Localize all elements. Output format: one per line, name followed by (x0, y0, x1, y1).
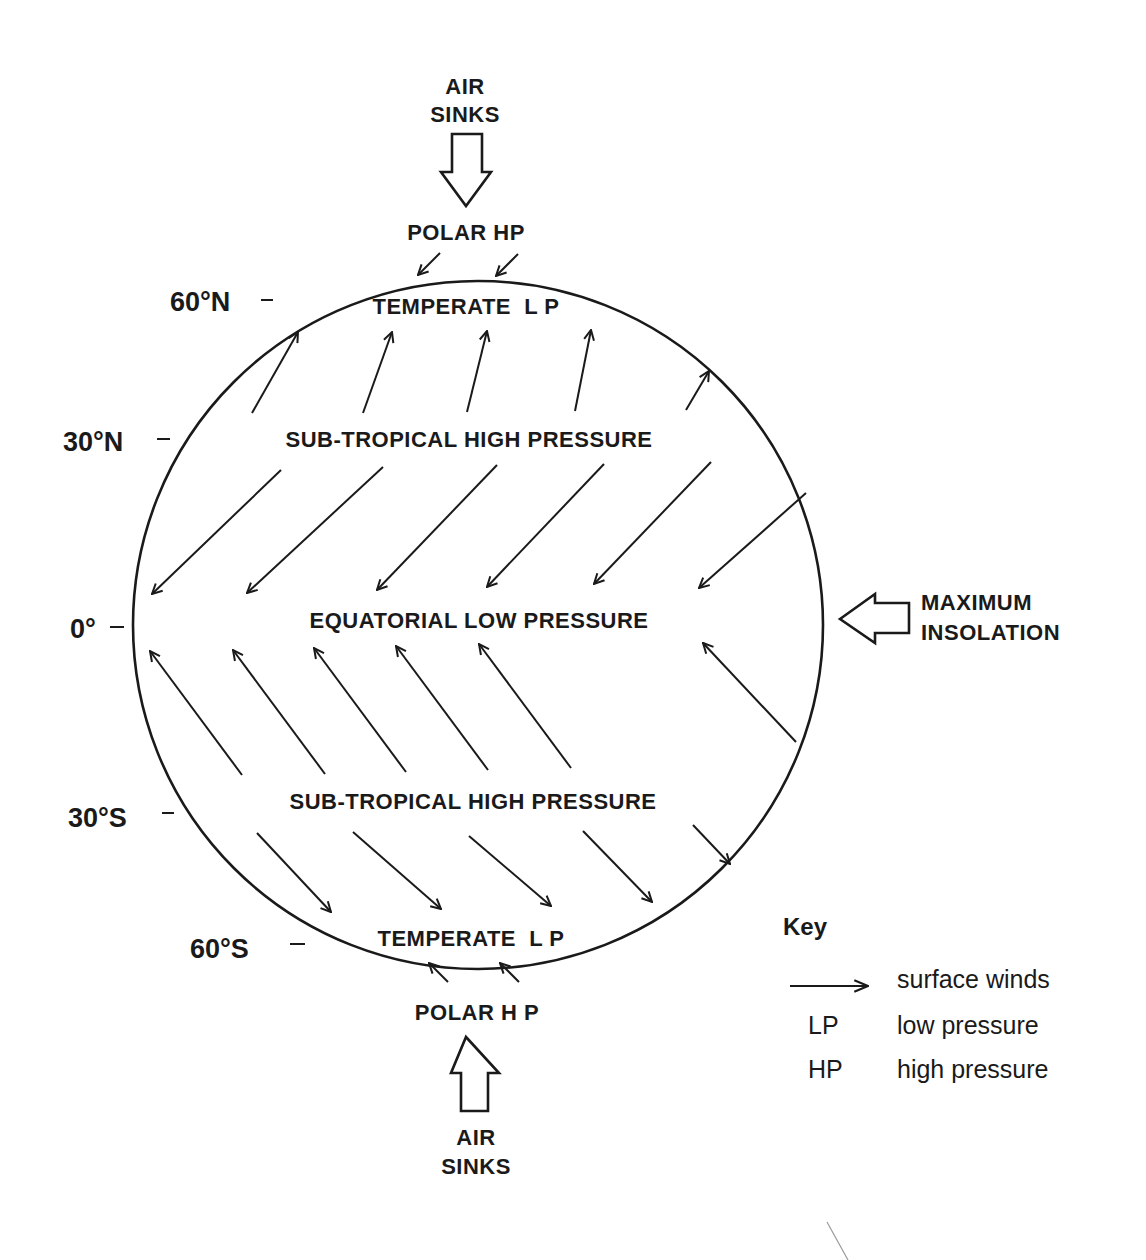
latitude-label: 0° (70, 614, 96, 644)
latitude-label: 30°S (68, 803, 127, 833)
global-wind-diagram: AIR SINKS AIR SINKS MAXIMUM INSOLATION P… (0, 0, 1146, 1260)
wind-band-trade-winds-south (150, 643, 796, 775)
wind-arrow-icon (693, 825, 730, 864)
wind-arrow-icon (686, 371, 709, 410)
polar-hp-south-label: POLAR H P (415, 1000, 539, 1025)
latitude-60s: 60°S (190, 934, 305, 964)
wind-arrow-icon (594, 462, 711, 584)
wind-arrow-icon (377, 465, 497, 590)
insolation-label: INSOLATION (921, 620, 1060, 645)
latitude-60n: 60°N (170, 287, 273, 317)
temperate-lp-south-label: TEMPERATE L P (377, 926, 564, 951)
latitude-label: 60°N (170, 287, 230, 317)
key-legend: Key surface winds LP low pressure HP hig… (783, 913, 1050, 1083)
wind-arrow-icon (257, 833, 331, 912)
wind-arrow-icon (699, 493, 806, 588)
latitude-30s: 30°S (68, 803, 174, 833)
equatorial-lp-label: EQUATORIAL LOW PRESSURE (309, 608, 648, 633)
subtropical-hp-south-label: SUB-TROPICAL HIGH PRESSURE (289, 789, 656, 814)
maximum-label: MAXIMUM (921, 590, 1032, 615)
key-title: Key (783, 913, 828, 940)
wind-arrow-icon (418, 253, 440, 275)
wind-arrow-icon (469, 836, 551, 906)
bottom-sinks-label: SINKS (441, 1154, 511, 1179)
wind-arrow-icon (233, 650, 325, 774)
top-air-sinks: AIR SINKS (430, 74, 500, 206)
key-lp-symbol: LP (808, 1011, 839, 1039)
key-high-pressure-label: high pressure (897, 1055, 1048, 1083)
wind-band-westerlies-south (257, 825, 730, 912)
left-hollow-arrow-icon (840, 594, 909, 643)
key-low-pressure-label: low pressure (897, 1011, 1039, 1039)
latitude-0: 0° (70, 614, 124, 644)
wind-arrow-icon (487, 464, 604, 587)
wind-arrow-icon (575, 330, 591, 411)
wind-band-polar-easterlies-north (418, 253, 518, 276)
wind-arrow-icon (353, 832, 441, 909)
top-sinks-label: SINKS (430, 102, 500, 127)
wind-arrow-icon (496, 254, 518, 276)
down-hollow-arrow-icon (441, 134, 491, 206)
maximum-insolation: MAXIMUM INSOLATION (840, 590, 1060, 645)
wind-arrow-icon (467, 331, 487, 412)
wind-band-westerlies-north (252, 330, 709, 413)
wind-arrow-icon (152, 470, 281, 594)
up-hollow-arrow-icon (451, 1037, 499, 1111)
wind-band-trade-winds-north (152, 462, 806, 594)
bottom-air-label: AIR (456, 1125, 495, 1150)
wind-arrow-icon (150, 651, 242, 775)
wind-arrow-icon (703, 643, 796, 742)
wind-arrow-icon (583, 831, 652, 902)
latitude-30n: 30°N (63, 427, 170, 457)
latitude-label: 30°N (63, 427, 123, 457)
latitude-label: 60°S (190, 934, 249, 964)
temperate-lp-north-label: TEMPERATE L P (372, 294, 559, 319)
wind-arrow-icon (314, 648, 406, 772)
wind-arrow-icon (479, 644, 571, 768)
wind-arrow-icon (396, 646, 488, 770)
wind-arrow-icon (363, 332, 392, 413)
scan-artifact-line (827, 1222, 848, 1260)
key-surface-winds-label: surface winds (897, 965, 1050, 993)
bottom-air-sinks: AIR SINKS (441, 1037, 511, 1179)
wind-arrow-icon (247, 467, 383, 593)
polar-hp-north-label: POLAR HP (407, 220, 525, 245)
wind-band-polar-easterlies-south (429, 963, 519, 982)
top-air-label: AIR (445, 74, 484, 99)
wind-arrow-icon (252, 332, 298, 413)
key-hp-symbol: HP (808, 1055, 843, 1083)
subtropical-hp-north-label: SUB-TROPICAL HIGH PRESSURE (285, 427, 652, 452)
